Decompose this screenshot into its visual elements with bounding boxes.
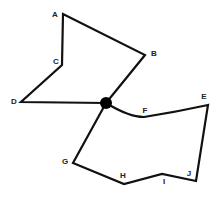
label-f: F	[143, 106, 148, 115]
label-c: C	[53, 57, 59, 66]
upper-loop-path	[21, 14, 145, 103]
label-g: G	[62, 157, 68, 166]
label-h: H	[120, 171, 126, 180]
label-j: J	[187, 169, 191, 178]
hub-node	[100, 97, 112, 109]
label-i: I	[163, 177, 165, 186]
label-a: A	[52, 10, 58, 19]
loop-diagram: A B C D E F G H I J	[0, 0, 219, 197]
label-e: E	[201, 92, 207, 101]
label-d: D	[11, 97, 17, 106]
label-b: B	[151, 49, 157, 58]
